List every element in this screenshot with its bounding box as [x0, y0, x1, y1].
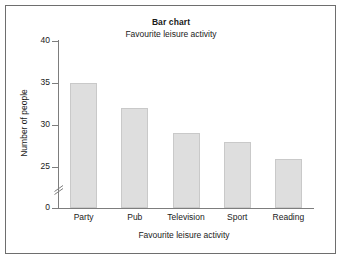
chart-screenshot: Bar chart Favourite leisure activity Num… [0, 0, 342, 260]
y-tick-label-text: 0 [28, 203, 50, 212]
category-label: Sport [212, 212, 263, 222]
y-tick-label: 0 [26, 203, 50, 213]
category-label: Reading [263, 212, 314, 222]
y-tick-label: 35 [26, 78, 50, 88]
bar-series [58, 40, 314, 208]
y-tick-label: 30 [26, 120, 50, 130]
bar [224, 142, 251, 208]
y-tick-label-text: 30 [28, 120, 50, 129]
bar [121, 108, 148, 208]
bar [70, 83, 97, 208]
chart-title: Bar chart [0, 17, 342, 27]
y-tick-label: 40 [26, 36, 50, 46]
bar-chart: Bar chart Favourite leisure activity Num… [0, 0, 342, 260]
bar [275, 159, 302, 208]
category-label: Television [160, 212, 211, 222]
x-axis-label: Favourite leisure activity [55, 230, 313, 240]
bar [173, 133, 200, 208]
category-label: Party [58, 212, 109, 222]
y-tick-label-text: 35 [28, 78, 50, 87]
y-tick-label-text: 25 [28, 162, 50, 171]
category-label: Pub [109, 212, 160, 222]
y-tick [52, 208, 59, 209]
y-tick-label-text: 40 [28, 36, 50, 45]
y-tick-label: 25 [26, 162, 50, 172]
chart-subtitle: Favourite leisure activity [0, 29, 342, 39]
x-axis-line [58, 208, 314, 209]
